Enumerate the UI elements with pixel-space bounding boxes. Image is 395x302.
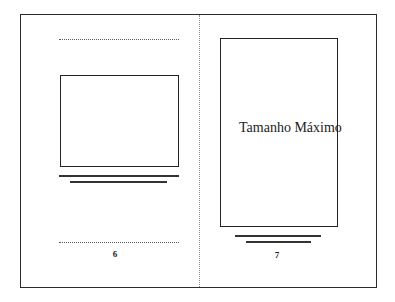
right-image-frame-max-size: Tamanho Máximo — [220, 38, 338, 227]
right-caption-line-1 — [235, 235, 321, 237]
left-image-frame — [60, 75, 179, 167]
left-bottom-dotted-guide — [59, 242, 179, 243]
right-page-number: 7 — [267, 250, 287, 260]
left-page-number: 6 — [105, 249, 125, 259]
left-top-dotted-guide — [59, 39, 179, 40]
right-caption-line-2 — [246, 241, 311, 243]
left-caption-line-1 — [59, 175, 179, 177]
frame-label: Tamanho Máximo — [239, 120, 342, 136]
left-caption-line-2 — [70, 181, 167, 183]
gutter-dotted-line — [199, 15, 200, 287]
